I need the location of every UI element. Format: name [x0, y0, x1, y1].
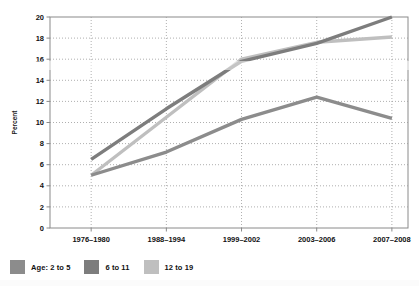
legend-item-12-to-19: 12 to 19 — [144, 260, 194, 274]
scan-band-artifact-bottom — [0, 280, 419, 286]
y-tick-label: 2 — [40, 203, 44, 212]
y-tick-label: 20 — [36, 13, 44, 22]
y-tick-label: 6 — [40, 160, 44, 169]
legend-swatch-age-2-to-5 — [10, 260, 25, 274]
chart-figure: 024681012141618201976–19801988–19941999–… — [0, 0, 419, 286]
legend-label-age-2-to-5: Age: 2 to 5 — [31, 263, 70, 272]
legend-swatch-12-to-19 — [144, 260, 159, 274]
x-tick-label: 2003–2006 — [298, 235, 336, 244]
y-tick-label: 18 — [36, 34, 44, 43]
legend-item-6-to-11: 6 to 11 — [84, 260, 129, 274]
x-tick-label: 1976–1980 — [72, 235, 110, 244]
plot-area: 024681012141618201976–19801988–19941999–… — [0, 0, 419, 250]
legend-swatch-6-to-11 — [84, 260, 99, 274]
y-tick-label: 16 — [36, 55, 44, 64]
legend-label-6-to-11: 6 to 11 — [105, 263, 129, 272]
x-tick-label: 1988–1994 — [148, 235, 186, 244]
y-tick-label: 4 — [40, 181, 45, 190]
x-tick-label: 1999–2002 — [223, 235, 261, 244]
series-line — [91, 97, 392, 175]
x-tick-label: 2007–2008 — [373, 235, 411, 244]
legend-label-12-to-19: 12 to 19 — [165, 263, 194, 272]
chart-legend: Age: 2 to 5 6 to 11 12 to 19 — [10, 256, 207, 278]
legend-item-age-2-to-5: Age: 2 to 5 — [10, 260, 70, 274]
y-tick-label: 12 — [36, 97, 44, 106]
y-axis-title: Percent — [11, 110, 18, 135]
y-tick-label: 14 — [36, 76, 45, 85]
y-tick-label: 10 — [36, 118, 44, 127]
line-chart-svg: 024681012141618201976–19801988–19941999–… — [0, 0, 419, 250]
plot-frame — [50, 17, 408, 228]
y-tick-label: 0 — [40, 224, 44, 233]
y-tick-label: 8 — [40, 139, 44, 148]
